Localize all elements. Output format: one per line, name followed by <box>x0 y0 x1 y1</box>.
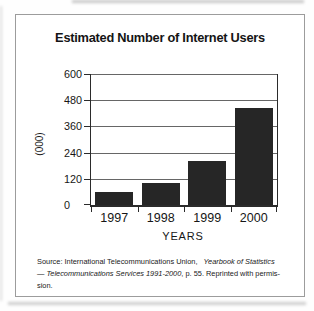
x-axis-title: YEARS <box>90 230 276 242</box>
source-text-regular-continued: , p. 55. Reprinted with permis- <box>181 269 280 278</box>
y-tick-label: 0 <box>64 199 90 211</box>
bar-1997 <box>95 192 133 205</box>
source-note: Source: International Telecommunications… <box>37 256 305 291</box>
bar-2000 <box>235 108 273 205</box>
source-line-1: Source: International Telecommunications… <box>37 256 305 268</box>
source-line-3: sion. <box>37 280 305 292</box>
scan-artifact-left <box>0 6 2 301</box>
source-title-italic-continued: — Telecommunications Services 1991-2000 <box>37 269 181 278</box>
scanned-figure-page: Estimated Number of Internet Users (000)… <box>0 0 314 311</box>
scan-artifact-bottom <box>8 302 306 305</box>
x-tick-label: 1999 <box>184 211 231 225</box>
chart-title: Estimated Number of Internet Users <box>16 30 304 45</box>
bar-1999 <box>188 161 226 205</box>
x-tick-label: 2000 <box>231 211 278 225</box>
gridline-480 <box>91 100 277 101</box>
y-tick-label: 240 <box>64 147 90 159</box>
source-line-2: — Telecommunications Services 1991-2000,… <box>37 268 305 280</box>
y-tick-label: 360 <box>64 120 90 132</box>
y-tick-label: 480 <box>64 94 90 106</box>
gridline-600 <box>91 74 277 75</box>
x-tick-label: 1997 <box>91 211 138 225</box>
scan-artifact-top <box>72 0 304 3</box>
source-text-regular: Source: International Telecommunications… <box>37 257 200 266</box>
plot-area: 01202403604806001997199819992000 <box>90 74 278 207</box>
source-text-end: sion. <box>37 281 53 290</box>
x-tick-label: 1998 <box>138 211 185 225</box>
bar-1998 <box>142 183 180 205</box>
source-title-italic: Yearbook of Statistics <box>204 257 275 266</box>
y-tick-label: 120 <box>64 173 90 185</box>
figure-frame: Estimated Number of Internet Users (000)… <box>15 14 305 297</box>
y-axis-unit-label: (000) <box>33 122 47 166</box>
y-tick-label: 600 <box>64 68 90 80</box>
